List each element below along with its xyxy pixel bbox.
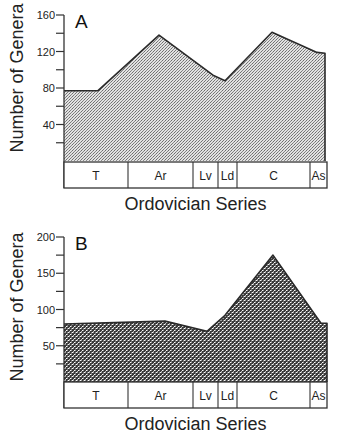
y-tick-label: 40 xyxy=(43,119,55,131)
y-tick-label: 120 xyxy=(37,46,55,58)
y-tick-label: 50 xyxy=(43,340,55,352)
y-axis-title: Number of Genera xyxy=(7,2,27,152)
series-label-as: As xyxy=(311,389,325,403)
panel-a: 4080120160ATArLvLdCAsOrdovician SeriesNu… xyxy=(7,2,327,214)
series-box xyxy=(64,382,327,408)
y-tick-label: 150 xyxy=(37,267,55,279)
genera-charts: 4080120160ATArLvLdCAsOrdovician SeriesNu… xyxy=(0,0,340,441)
series-label-c: C xyxy=(269,389,278,403)
panel-letter: A xyxy=(75,11,88,32)
series-label-lv: Lv xyxy=(199,169,212,183)
x-axis-title: Ordovician Series xyxy=(124,194,266,214)
panel-b: 50100150200BTArLvLdCAsOrdovician SeriesN… xyxy=(7,231,327,434)
series-label-ar: Ar xyxy=(155,169,167,183)
panel-letter: B xyxy=(75,233,88,254)
y-tick-label: 100 xyxy=(37,304,55,316)
x-axis-title: Ordovician Series xyxy=(124,414,266,434)
area-fill xyxy=(64,255,327,382)
series-label-ld: Ld xyxy=(221,389,234,403)
series-label-t: T xyxy=(92,169,100,183)
series-label-ar: Ar xyxy=(155,389,167,403)
series-label-c: C xyxy=(269,169,278,183)
y-tick-label: 200 xyxy=(37,231,55,243)
series-label-as: As xyxy=(311,169,325,183)
y-tick-label: 160 xyxy=(37,9,55,21)
series-label-lv: Lv xyxy=(199,389,212,403)
area-fill xyxy=(64,32,325,161)
y-axis-title: Number of Genera xyxy=(7,231,27,381)
y-tick-label: 80 xyxy=(43,82,55,94)
series-label-t: T xyxy=(92,389,100,403)
series-label-ld: Ld xyxy=(221,169,234,183)
series-box xyxy=(64,162,327,188)
